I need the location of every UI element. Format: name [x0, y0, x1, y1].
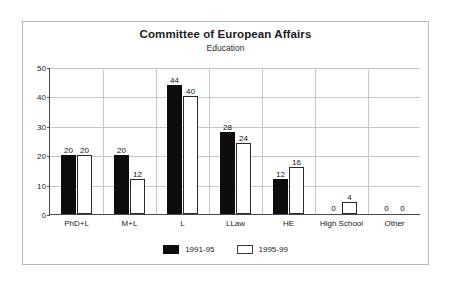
x-axis-tick-label: LLaw — [226, 219, 245, 228]
x-axis-tick-label: High School — [320, 219, 363, 228]
x-axis-tick-label: PhD+L — [64, 219, 89, 228]
x-axis-tick-label: HE — [283, 219, 294, 228]
y-axis-tick-label: 40 — [37, 93, 46, 102]
legend-swatch-icon — [163, 245, 179, 254]
legend-swatch-icon — [237, 245, 253, 254]
chart-container: Committee of European Affairs Education … — [22, 21, 429, 265]
chart-legend: 1991-95 1995-99 — [23, 245, 428, 254]
legend-item-label: 1995-99 — [259, 245, 288, 254]
y-axis-tick-label: 20 — [37, 152, 46, 161]
y-axis-tick-mark — [47, 215, 50, 216]
x-axis-category: L — [156, 68, 209, 214]
x-axis-tick-label: M+L — [122, 219, 138, 228]
legend-item: 1995-99 — [237, 245, 288, 254]
x-axis-category: M+L — [103, 68, 156, 214]
y-axis-tick-label: 50 — [37, 64, 46, 73]
y-axis-tick-label: 0 — [42, 211, 46, 220]
chart-header: Committee of European Affairs Education — [23, 28, 428, 53]
plot-area: 01020304050 202020124440282412160400 PhD… — [49, 68, 420, 215]
x-axis-category: High School — [315, 68, 368, 214]
chart-subtitle: Education — [23, 43, 428, 53]
x-axis-labels: PhD+LM+LLLLawHEHigh SchoolOther — [50, 68, 420, 214]
x-axis-tick-label: Other — [384, 219, 404, 228]
y-axis-tick-label: 10 — [37, 181, 46, 190]
legend-item: 1991-95 — [163, 245, 214, 254]
chart-title: Committee of European Affairs — [23, 28, 428, 40]
x-axis-category: PhD+L — [50, 68, 103, 214]
x-axis-category: HE — [262, 68, 315, 214]
x-axis-category: LLaw — [209, 68, 262, 214]
y-axis-tick-label: 30 — [37, 122, 46, 131]
x-axis-category: Other — [368, 68, 421, 214]
x-axis-tick-label: L — [180, 219, 184, 228]
legend-item-label: 1991-95 — [185, 245, 214, 254]
